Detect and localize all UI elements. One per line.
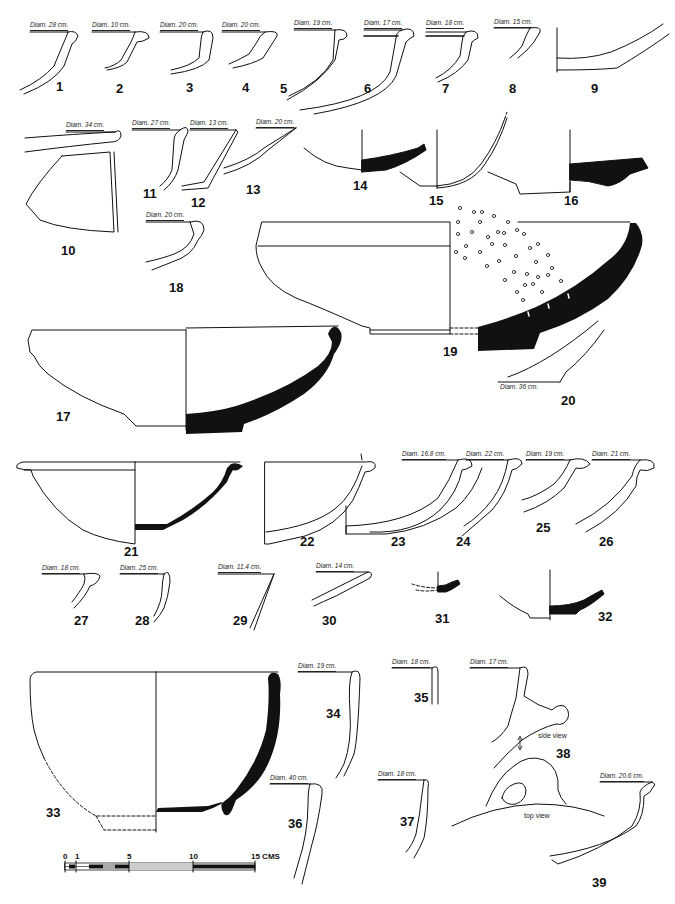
item-number-30: 30: [322, 614, 336, 627]
profile-19: [256, 206, 642, 351]
diam-label-34: Diam. 19 cm.: [298, 663, 336, 672]
item-number-7: 7: [442, 82, 449, 95]
item-number-21: 21: [124, 545, 138, 558]
diam-label-23: Diam. 16.8 cm.: [402, 451, 446, 460]
item-number-33: 33: [46, 806, 60, 819]
item-number-14: 14: [353, 179, 367, 192]
profile-3: [160, 31, 213, 74]
profile-18: [146, 221, 204, 270]
item-number-24: 24: [456, 535, 470, 548]
item-number-15: 15: [429, 194, 443, 207]
item-number-20: 20: [561, 394, 575, 407]
diam-label-11: Diam. 27 cm.: [132, 120, 170, 129]
diam-label-38: Diam. 17 cm.: [470, 659, 508, 668]
profile-31: [412, 572, 460, 592]
diam-label-25: Diam. 19 cm.: [526, 451, 564, 460]
diam-label-5: Diam. 19 cm.: [294, 20, 332, 29]
item-number-17: 17: [56, 410, 70, 423]
item-number-34: 34: [326, 707, 340, 720]
diam-label-1: Diam. 28 cm.: [30, 22, 68, 31]
profile-6: [300, 29, 414, 114]
scale-tick-0: 0: [63, 853, 67, 861]
profile-34: [298, 671, 360, 778]
item-number-36: 36: [288, 817, 302, 830]
item-number-35: 35: [414, 691, 428, 704]
profile-27: [42, 573, 100, 608]
item-number-2: 2: [116, 82, 123, 95]
profile-11: [132, 127, 188, 190]
profile-7: [426, 31, 478, 82]
diam-label-26: Diam. 21 cm.: [592, 451, 630, 460]
profile-21: [17, 462, 243, 544]
profile-33: [30, 672, 281, 832]
item-number-26: 26: [599, 535, 613, 548]
scale-tick-10: 10: [189, 853, 198, 861]
profile-38: [452, 667, 604, 826]
diam-label-28: Diam. 25 cm.: [120, 565, 158, 574]
item-number-11: 11: [143, 187, 157, 200]
profile-17: [28, 326, 342, 434]
item-number-12: 12: [191, 196, 205, 209]
item-number-18: 18: [169, 281, 183, 294]
diam-label-6: Diam. 17 cm.: [364, 20, 402, 29]
scale-tick-5: 5: [127, 853, 131, 861]
profile-36: [270, 784, 322, 884]
item-number-37: 37: [400, 815, 414, 828]
profile-14: [304, 130, 426, 172]
profile-26: [576, 460, 654, 532]
diam-label-3: Diam. 20 cm.: [160, 22, 198, 31]
item-number-38: 38: [556, 747, 570, 760]
profile-12: [182, 130, 238, 190]
profile-4: [222, 32, 277, 69]
item-number-28: 28: [135, 614, 149, 627]
top-view-note: top view: [524, 812, 550, 819]
item-number-10: 10: [61, 244, 75, 257]
item-number-23: 23: [391, 535, 405, 548]
diam-label-30: Diam. 14 cm.: [316, 563, 354, 572]
item-number-29: 29: [233, 614, 247, 627]
item-number-4: 4: [242, 81, 249, 94]
profile-16: [488, 130, 648, 194]
item-number-19: 19: [443, 345, 457, 358]
diam-label-27: Diam. 18 cm.: [42, 565, 80, 574]
diam-label-39: Diam. 20.6 cm.: [600, 773, 644, 782]
profile-10: [25, 131, 121, 232]
item-number-8: 8: [509, 82, 516, 95]
item-number-27: 27: [74, 614, 88, 627]
profile-39: [550, 782, 655, 864]
profile-22: [265, 454, 375, 544]
profile-13: [224, 128, 296, 174]
scale-tick-1: 1: [75, 853, 79, 861]
item-number-39: 39: [592, 876, 606, 889]
profile-23: [346, 459, 482, 534]
item-number-13: 13: [246, 183, 260, 196]
profile-2: [92, 32, 149, 70]
diam-label-7: Diam. 18 cm.: [426, 20, 464, 29]
item-number-25: 25: [536, 521, 550, 534]
diam-label-35: Diam. 18 cm.: [392, 659, 430, 668]
diam-label-4: Diam. 20 cm.: [222, 22, 260, 31]
item-number-31: 31: [435, 612, 449, 625]
diam-label-29: Diam. 11.4 cm.: [218, 564, 261, 573]
scale-bar: [65, 861, 255, 872]
item-number-1: 1: [56, 80, 63, 93]
item-number-22: 22: [300, 535, 314, 548]
diam-label-12: Diam. 13 cm.: [190, 120, 228, 129]
diam-label-37: Diam. 18 cm.: [378, 771, 416, 780]
scale-tick-15: 15 CMS: [251, 853, 280, 861]
side-view-note: side view: [538, 732, 567, 739]
item-number-16: 16: [564, 194, 578, 207]
diam-label-13: Diam. 20 cm.: [256, 119, 294, 128]
profile-9: [557, 24, 669, 72]
item-number-32: 32: [598, 610, 612, 623]
item-number-9: 9: [591, 82, 598, 95]
profile-30: [312, 572, 372, 606]
profile-25: [522, 459, 590, 512]
profile-5: [287, 30, 347, 100]
pottery-profiles-drawing: [0, 0, 675, 904]
diam-label-2: Diam. 10 cm.: [92, 22, 130, 31]
diam-label-24: Diam. 22 cm.: [466, 451, 504, 460]
item-number-3: 3: [186, 81, 193, 94]
item-number-6: 6: [364, 82, 371, 95]
profile-8: [494, 28, 540, 59]
